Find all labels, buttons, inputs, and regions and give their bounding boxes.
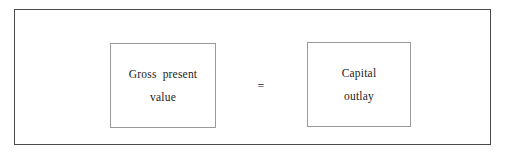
term-label-line-2: value: [150, 86, 176, 109]
equation-row: Gross present value = Capital outlay: [15, 10, 490, 144]
term-box-capital-outlay: Capital outlay: [307, 42, 411, 127]
term-label-line-2: outlay: [344, 85, 374, 108]
term-label-line-1: Gross present: [129, 63, 198, 86]
figure-canvas: Gross present value = Capital outlay: [0, 0, 507, 157]
figure-outer-frame: Gross present value = Capital outlay: [14, 9, 491, 145]
term-label-line-1: Capital: [342, 62, 377, 85]
term-box-gross-present-value: Gross present value: [110, 43, 216, 128]
equals-operator: =: [247, 76, 275, 96]
